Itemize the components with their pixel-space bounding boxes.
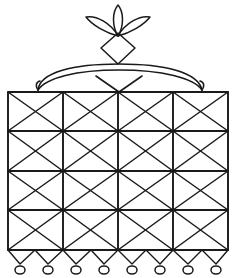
bead-7	[183, 266, 193, 274]
bead-row-group	[15, 266, 221, 274]
bead-3	[71, 266, 81, 274]
sawtooth-fringe	[8, 250, 228, 264]
bead-2	[43, 266, 53, 274]
handle-group	[36, 64, 203, 92]
basket-body-group	[8, 92, 228, 250]
handle-chevron	[96, 76, 142, 92]
fringe-group	[8, 250, 228, 264]
bead-6	[155, 266, 165, 274]
diamond-finial-icon	[101, 33, 135, 64]
bead-5	[127, 266, 137, 274]
floral-finial-group	[86, 5, 150, 64]
handle-inner-arc	[38, 70, 202, 90]
basket-line-drawing	[0, 0, 237, 278]
bead-4	[99, 266, 109, 274]
bead-1	[15, 266, 25, 274]
figure-canvas	[0, 0, 237, 278]
bead-8	[211, 266, 221, 274]
